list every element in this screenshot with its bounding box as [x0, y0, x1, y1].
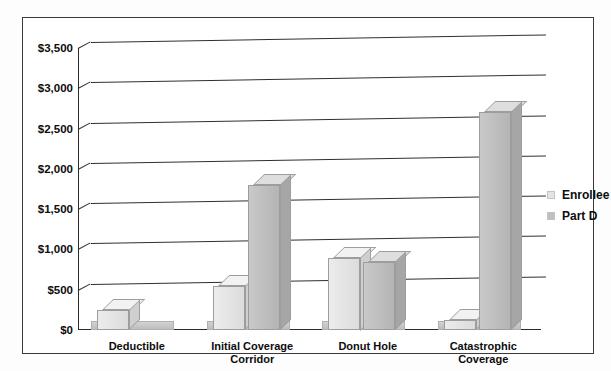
gridline-riser [78, 243, 91, 250]
y-axis-tick-label: $1,500 [17, 203, 73, 215]
bar-part-d [248, 185, 280, 330]
gridline [91, 34, 546, 43]
bar-face [213, 286, 245, 330]
plot-area: $0$500$1,000$1,500$2,000$2,500$3,000$3,5… [79, 48, 541, 330]
legend-item[interactable]: Part D [547, 209, 609, 223]
bar-part-d [363, 262, 395, 330]
chart-frame: $0$500$1,000$1,500$2,000$2,500$3,000$3,5… [22, 17, 594, 354]
bar-enrollee [213, 286, 245, 330]
y-axis-tick-label: $1,000 [17, 243, 73, 255]
category-label: Catastrophic Coverage [423, 340, 543, 366]
gridline-riser [78, 122, 91, 129]
gridline-riser [78, 283, 91, 290]
gridline [91, 75, 546, 84]
bar-enrollee [97, 310, 129, 330]
y-axis-tick-label: $2,500 [17, 123, 73, 135]
bar-face [328, 258, 360, 331]
bar-side [395, 252, 406, 330]
bar-part-d [132, 329, 164, 330]
legend-label: Enrollee [562, 188, 609, 202]
y-axis-tick-label: $2,000 [17, 163, 73, 175]
bar-face [479, 112, 511, 330]
bar-face [444, 320, 476, 330]
y-axis-tick-label: $0 [17, 324, 73, 336]
legend-label: Part D [562, 209, 597, 223]
y-axis-tick-label: $500 [17, 284, 73, 296]
y-axis-tick-label: $3,000 [17, 82, 73, 94]
legend-swatch-icon [547, 212, 555, 220]
bar-face [363, 262, 395, 330]
bar-enrollee [328, 258, 360, 331]
y-axis-tick-label: $3,500 [17, 42, 73, 54]
gridline-riser [78, 162, 91, 169]
bar-enrollee [444, 320, 476, 330]
bar-face [248, 185, 280, 330]
legend-item[interactable]: Enrollee [547, 188, 609, 202]
bar-side [511, 102, 522, 330]
category-label: Deductible [77, 340, 197, 353]
chart-figure: $0$500$1,000$1,500$2,000$2,500$3,000$3,5… [0, 0, 611, 371]
category-label: Initial Coverage Corridor [192, 340, 312, 366]
legend-swatch-icon [547, 191, 555, 199]
chart-legend: EnrolleePart D [547, 188, 609, 230]
gridline-riser [78, 41, 91, 48]
y-axis-line [78, 48, 79, 330]
gridline-riser [78, 203, 91, 210]
bar-side [280, 174, 291, 330]
bar-part-d [479, 112, 511, 330]
bar-face [97, 310, 129, 330]
gridline-riser [78, 82, 91, 89]
category-label: Donut Hole [308, 340, 428, 353]
